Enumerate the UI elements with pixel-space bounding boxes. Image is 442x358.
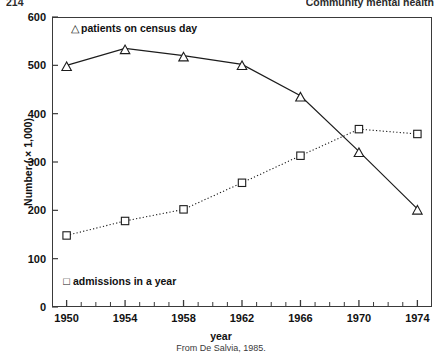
y-axis-title: Number ( × 1,000) bbox=[22, 82, 34, 242]
legend-label-admissions: admissions in a year bbox=[73, 275, 176, 287]
data-point-triangle bbox=[237, 61, 247, 70]
y-axis-tick-label: 100 bbox=[6, 254, 46, 265]
x-axis-tick-label: 1962 bbox=[219, 313, 265, 324]
series-layer bbox=[62, 45, 422, 239]
figure-container: 214 Community mental health 010020030040… bbox=[0, 0, 442, 358]
data-point-triangle bbox=[413, 205, 423, 214]
data-point-square bbox=[121, 217, 128, 224]
source-caption: From De Salvia, 1985. bbox=[0, 343, 442, 353]
data-point-square bbox=[238, 179, 245, 186]
y-axis-tick-label: 600 bbox=[6, 12, 46, 23]
legend-item-census: △patients on census day bbox=[68, 22, 197, 34]
square-outline-icon: □ bbox=[60, 275, 73, 287]
y-axis-tick-label: 0 bbox=[6, 302, 46, 313]
x-axis-title: year bbox=[0, 330, 442, 342]
x-axis-tick-label: 1966 bbox=[277, 313, 323, 324]
legend-label-census: patients on census day bbox=[81, 22, 197, 34]
y-axis-tick-label: 500 bbox=[6, 60, 46, 71]
data-point-square bbox=[355, 125, 362, 132]
x-axis-tick-label: 1954 bbox=[102, 313, 148, 324]
x-axis-tick-label: 1950 bbox=[44, 313, 90, 324]
x-axis-tick-label: 1958 bbox=[161, 313, 207, 324]
legend-item-admissions: □admissions in a year bbox=[60, 275, 176, 287]
x-axis-tick-label: 1974 bbox=[394, 313, 440, 324]
data-point-triangle bbox=[62, 62, 72, 71]
data-point-triangle bbox=[354, 148, 364, 157]
data-point-square bbox=[297, 152, 304, 159]
data-point-square bbox=[414, 130, 421, 137]
axis-ticks bbox=[52, 17, 417, 307]
triangle-outline-icon: △ bbox=[68, 22, 81, 34]
x-axis-tick-label: 1970 bbox=[336, 313, 382, 324]
data-point-square bbox=[63, 232, 70, 239]
chart-canvas bbox=[0, 0, 442, 358]
data-point-square bbox=[180, 206, 187, 213]
